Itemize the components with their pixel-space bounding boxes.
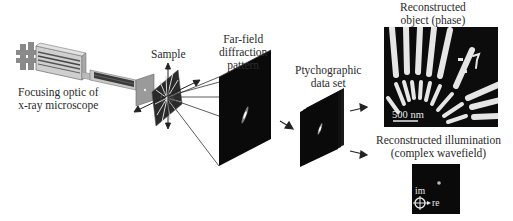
dataset-label-line2: data set — [295, 77, 361, 90]
farfield-label: Far-field diffraction pattern — [219, 33, 267, 72]
illumination-label-line2: (complex wavefield) — [376, 147, 501, 160]
optic-label-line2: x-ray microscope — [18, 99, 99, 112]
illumination-label: Reconstructed illumination (complex wave… — [376, 134, 501, 160]
arrow-to-illumination-icon — [350, 151, 367, 158]
arrow-to-dataset-icon — [280, 121, 293, 129]
sample-siemens-star-icon — [152, 70, 182, 126]
illumination-label-line1: Reconstructed illumination — [376, 134, 501, 147]
optic-label: Focusing optic of x-ray microscope — [18, 86, 99, 112]
object-label: Reconstructed object (phase) — [400, 1, 466, 27]
dataset-label-line1: Ptychographic — [295, 64, 361, 77]
farfield-label-line2: diffraction — [219, 46, 267, 59]
axis-re-label: re — [432, 197, 439, 210]
object-label-line2: object (phase) — [400, 14, 466, 27]
sample-label-text: Sample — [151, 48, 186, 61]
ptychographic-dataset-stack — [300, 88, 344, 167]
arrow-to-object-icon — [350, 104, 367, 111]
farfield-label-line1: Far-field — [219, 33, 267, 46]
sample-label: Sample — [151, 48, 186, 61]
scale-bar-label: 500 nm — [392, 108, 424, 121]
focusing-optic-icon — [16, 42, 136, 90]
axis-im-label: im — [415, 185, 425, 198]
optic-label-line1: Focusing optic of — [18, 86, 99, 99]
object-label-line1: Reconstructed — [400, 1, 466, 14]
farfield-label-line3: pattern — [219, 59, 267, 72]
dataset-label: Ptychographic data set — [295, 64, 361, 90]
